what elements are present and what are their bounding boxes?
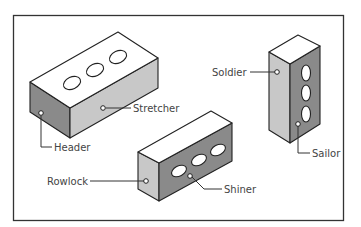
- sailor-label: Sailor: [312, 148, 341, 159]
- soldier-face: [269, 52, 290, 143]
- header-marker: [39, 111, 44, 116]
- rowlock-marker: [144, 179, 149, 184]
- soldier-label: Soldier: [212, 67, 248, 78]
- stretcher-label: Stretcher: [133, 103, 180, 114]
- sailor-marker: [296, 122, 301, 127]
- header-label: Header: [54, 142, 91, 153]
- vertical-brick: [269, 35, 320, 143]
- soldier-marker: [275, 70, 280, 75]
- rowlock-label: Rowlock: [47, 176, 88, 187]
- hole: [302, 65, 311, 81]
- hole: [302, 85, 311, 101]
- shiner-marker: [188, 174, 193, 179]
- shiner-label: Shiner: [224, 184, 257, 195]
- brick-positions-diagram: Stretcher Header Soldier Sailor Rowlock …: [0, 0, 361, 227]
- stretcher-marker: [101, 106, 106, 111]
- hole: [302, 106, 311, 122]
